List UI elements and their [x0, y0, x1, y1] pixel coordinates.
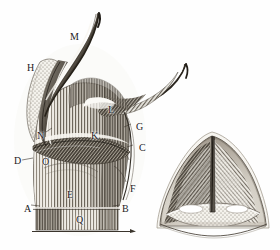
- label-L: L: [108, 105, 114, 115]
- label-B: B: [122, 204, 129, 214]
- label-C: C: [139, 143, 146, 153]
- label-D: D: [14, 156, 21, 166]
- label-O: O: [42, 157, 49, 167]
- label-H: H: [27, 63, 34, 73]
- label-A: A: [24, 204, 31, 214]
- label-F: F: [130, 184, 136, 194]
- engraving-plate: M H L G N K C D O E F A B Q: [0, 0, 280, 250]
- label-K: K: [91, 131, 98, 141]
- label-N: N: [37, 131, 44, 141]
- label-Q: Q: [76, 215, 83, 225]
- label-M: M: [70, 32, 79, 42]
- label-E: E: [67, 190, 73, 200]
- label-G: G: [136, 122, 143, 132]
- right-figure-group: [157, 132, 269, 238]
